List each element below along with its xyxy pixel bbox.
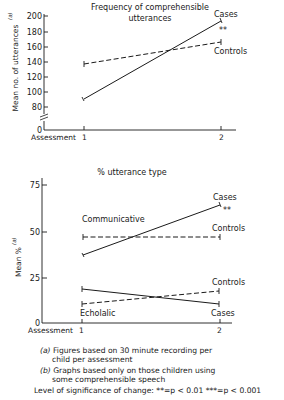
footnote-a-line1: Figures based on 30 minute recording per <box>53 346 212 355</box>
footnote-a: (a) Figures based on 30 minute recording… <box>40 346 284 364</box>
legend-controls: Controls <box>214 47 247 56</box>
group-label-communicative: Communicative <box>82 215 145 224</box>
axis-break-mark <box>40 117 48 120</box>
series-communicative-cases-line <box>83 205 220 255</box>
y-tick-label: 25 <box>30 274 40 283</box>
bottom-chart-title: % utterance type <box>97 168 166 177</box>
top-chart-title-line1: Frequency of comprehensible <box>91 3 209 12</box>
y-tick-label: 200 <box>27 12 42 21</box>
series-controls-line <box>84 42 221 64</box>
significance-marker: ** <box>219 26 227 35</box>
legend-controls: Controls <box>212 224 245 233</box>
y-tick-label: 50 <box>30 228 40 237</box>
footnote-b-line2: some comprehensible speech <box>40 375 284 384</box>
group-label-echolalic: Echolalic <box>80 309 115 318</box>
footnote-a-label: (a) <box>40 346 51 355</box>
footnote-b: (b) Graphs based only on those children … <box>40 366 284 384</box>
x-axis-label: Assessment <box>31 133 76 142</box>
chart-canvas: Frequency of comprehensible utterances 2… <box>0 0 284 400</box>
y-tick-label: 80 <box>32 103 42 112</box>
significance-marker: ** <box>223 206 231 215</box>
top-chart-title-line2: utterances <box>128 14 171 23</box>
x-axis-label: Assessment <box>28 326 73 335</box>
legend-cases: Cases <box>211 309 235 318</box>
x-tick-label: 2 <box>217 326 222 335</box>
legend-cases: Cases <box>214 10 238 19</box>
axis-break-mark <box>40 114 48 117</box>
legend-controls: Controls <box>212 278 245 287</box>
y-tick-label: 140 <box>27 58 42 67</box>
y-tick-label: 160 <box>27 43 42 52</box>
y-tick-label: 75 <box>30 181 40 190</box>
bottom-y-axis-label: Mean % <box>14 247 23 277</box>
top-y-axis-label: Mean no. of utterances <box>11 25 20 112</box>
y-tick-label: 120 <box>27 73 42 82</box>
significance-note: Level of significance of change: **=p < … <box>34 386 284 395</box>
bottom-y-axis-label-superscript: (a) <box>11 237 17 245</box>
x-tick-label: 2 <box>219 133 224 142</box>
footnotes: (a) Figures based on 30 minute recording… <box>40 346 284 395</box>
top-y-axis-label-superscript: (a) <box>7 12 13 20</box>
footnote-b-line1: Graphs based only on those children usin… <box>53 366 215 375</box>
x-tick-label: 1 <box>82 133 87 142</box>
legend-cases: Cases <box>213 193 237 202</box>
y-tick-label: 180 <box>27 28 42 37</box>
footnote-a-line2: child per assessment <box>40 355 284 364</box>
x-tick-label: 1 <box>79 326 84 335</box>
footnote-b-label: (b) <box>40 366 51 375</box>
y-tick-label: 100 <box>27 88 42 97</box>
top-chart: Frequency of comprehensible utterances 2… <box>7 3 247 142</box>
series-cases-line <box>84 21 221 99</box>
bottom-chart: % utterance type 75 50 25 0 Mean % (a) A… <box>11 168 245 335</box>
series-echolalic-cases-line <box>82 289 219 304</box>
